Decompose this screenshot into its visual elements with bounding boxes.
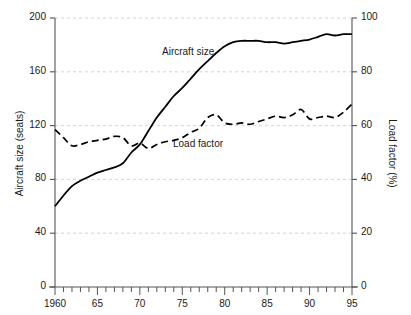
- y-axis-right-tick-label: 80: [361, 65, 401, 76]
- y-axis-left-title: Aircraft size (seats): [14, 84, 25, 224]
- x-axis-tick-label: 70: [120, 298, 160, 309]
- y-axis-right-tick-label: 20: [361, 226, 401, 237]
- x-axis-tick-label: 90: [290, 298, 330, 309]
- chart-container: Aircraft size (seats) Load factor (%) 04…: [0, 0, 411, 315]
- y-axis-right-title: Load factor (%): [387, 84, 398, 224]
- x-axis-tick-label: 65: [77, 298, 117, 309]
- y-axis-left-tick-label: 120: [6, 119, 46, 130]
- x-axis-tick-label: 80: [205, 298, 245, 309]
- y-axis-left-tick-label: 80: [6, 172, 46, 183]
- series-annotation-load-factor: Load factor: [173, 138, 223, 149]
- y-axis-right-tick-label: 60: [361, 119, 401, 130]
- series-line-aircraft-size: [55, 34, 352, 206]
- y-axis-left-tick-label: 0: [6, 280, 46, 291]
- x-axis-tick-label: 95: [332, 298, 372, 309]
- y-axis-left-tick-label: 160: [6, 65, 46, 76]
- axes-group: [49, 18, 358, 287]
- data-series-group: [55, 34, 352, 206]
- y-axis-right-tick-label: 100: [361, 11, 401, 22]
- axis-ticks-group: [50, 18, 357, 295]
- y-axis-right-tick-label: 40: [361, 172, 401, 183]
- y-axis-left-tick-label: 40: [6, 226, 46, 237]
- series-annotation-aircraft-size: Aircraft size: [162, 46, 214, 57]
- x-axis-tick-label: 75: [162, 298, 202, 309]
- y-axis-left-tick-label: 200: [6, 11, 46, 22]
- x-axis-tick-label: 85: [247, 298, 287, 309]
- x-axis-tick-label: 1960: [35, 298, 75, 309]
- y-axis-right-tick-label: 0: [361, 280, 401, 291]
